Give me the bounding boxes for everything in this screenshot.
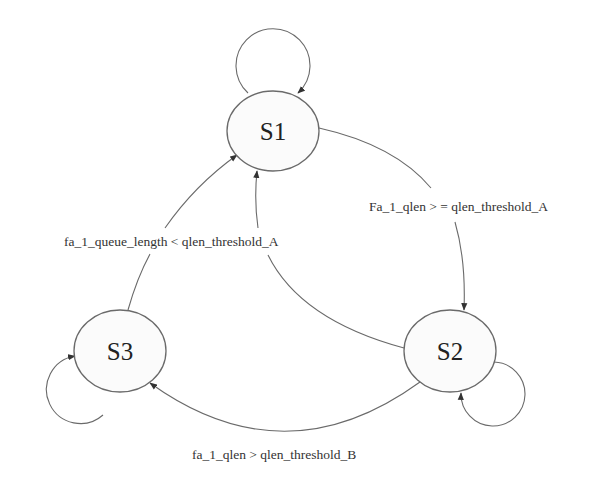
label-s2-to-s3: fa_1_qlen > qlen_threshold_B [192, 447, 356, 462]
edge-s2-to-s1-upper [256, 171, 258, 228]
edge-s1-to-s2-upper [319, 128, 431, 188]
edge-s3-to-s1-lower [128, 254, 150, 310]
label-s1-to-s2: Fa_1_qlen > = qlen_threshold_A [369, 199, 548, 214]
state-s3: S3 [74, 310, 166, 392]
label-s3-to-s1: fa_1_queue_length < qlen_threshold_A [64, 234, 279, 249]
state-s2: S2 [404, 310, 496, 392]
edge-s1-to-s2-lower [455, 222, 464, 310]
edge-s2-to-s1-lower [268, 255, 404, 348]
edge-s3-to-s1-upper [165, 155, 237, 228]
self-loop-s1 [236, 29, 310, 93]
state-s1-label: S1 [260, 118, 286, 145]
state-s3-label: S3 [107, 338, 133, 365]
state-diagram: S1 S2 S3 Fa_1_qlen > = qlen_threshold_A … [0, 0, 601, 482]
edge-s2-to-s3 [150, 382, 420, 431]
state-s2-label: S2 [437, 338, 463, 365]
state-s1: S1 [227, 91, 319, 171]
